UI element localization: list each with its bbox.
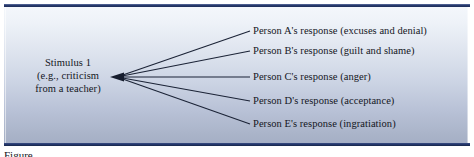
response-label-b: Person B's response (guilt and shame)	[253, 45, 415, 57]
connector-line-b	[117, 51, 250, 77]
connector-line-a	[117, 31, 250, 77]
connector-line-e	[117, 77, 250, 124]
figure-container: Stimulus 1 (e.g., criticism from a teach…	[0, 0, 474, 157]
response-label-c: Person C's response (anger)	[253, 71, 371, 83]
figure-caption: Figure	[4, 149, 470, 157]
arrowhead-icon	[110, 73, 124, 82]
connector-line-d	[117, 77, 250, 101]
response-label-e: Person E's response (ingratiation)	[253, 118, 396, 130]
response-label-a: Person A's response (excuses and denial)	[253, 25, 427, 37]
response-label-d: Person D's response (acceptance)	[253, 95, 394, 107]
response-label-list: Person A's response (excuses and denial)…	[253, 0, 473, 157]
